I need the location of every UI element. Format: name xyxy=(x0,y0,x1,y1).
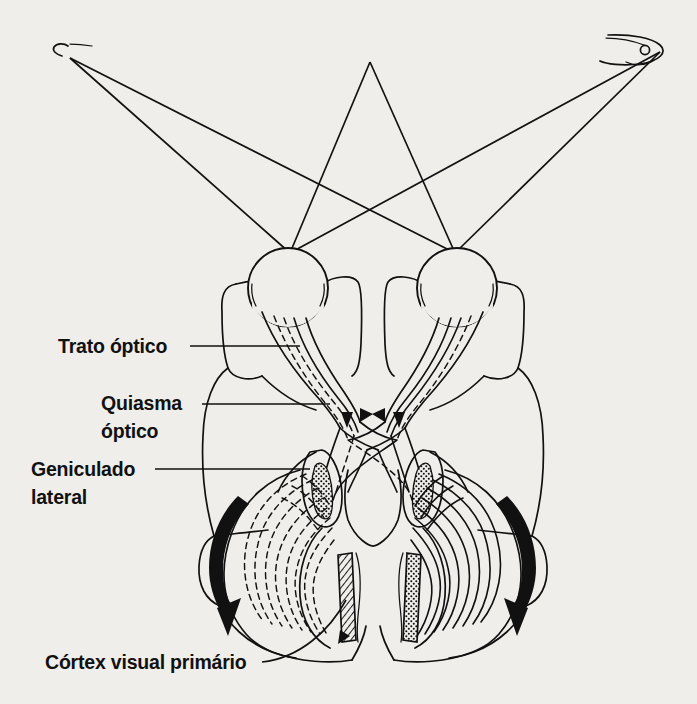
figure-root: Trato óptico Quiasma óptico Geniculado l… xyxy=(0,0,697,704)
label-geniculado-lateral-line2: lateral xyxy=(31,486,87,508)
eye-right xyxy=(417,248,497,338)
label-cortex-visual-primario: Córtex visual primário xyxy=(45,651,247,673)
cortex-right-v1-stippled xyxy=(403,553,421,642)
eye-left xyxy=(248,248,328,338)
label-quiasma-optico-line2: óptico xyxy=(101,420,159,442)
visual-field-eye-icon xyxy=(640,45,649,54)
visual-field-outline xyxy=(62,33,663,66)
cortex-left-v1-hatched xyxy=(338,553,356,642)
visual-pathway-diagram: Trato óptico Quiasma óptico Geniculado l… xyxy=(0,0,697,704)
label-trato-optico: Trato óptico xyxy=(58,335,167,357)
label-quiasma-optico-line1: Quiasma xyxy=(101,392,182,414)
label-geniculado-lateral-line1: Geniculado xyxy=(31,458,135,480)
